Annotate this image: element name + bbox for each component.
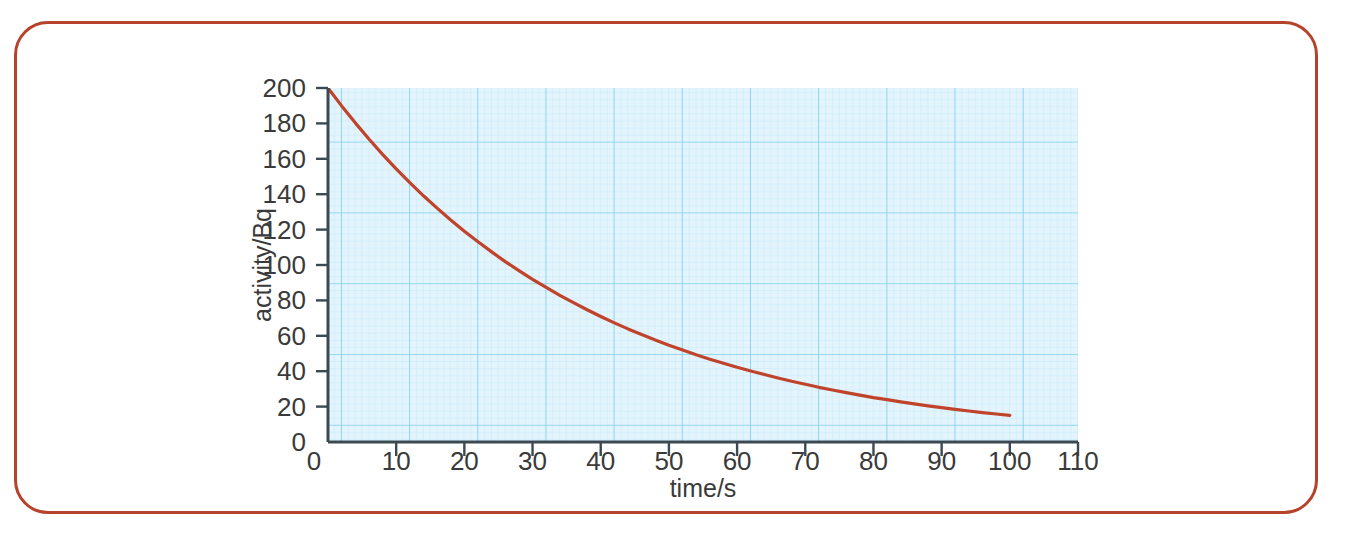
x-tick-label: 50: [654, 446, 683, 476]
x-axis-title: time/s: [670, 474, 737, 502]
x-tick-label: 110: [1057, 446, 1098, 476]
x-tick-label: 0: [307, 446, 321, 476]
x-tick-label: 30: [518, 446, 547, 476]
x-tick-label: 70: [791, 446, 820, 476]
y-tick-label: 80: [277, 285, 306, 315]
x-tick-label: 90: [927, 446, 956, 476]
chart-svg: 020406080100120140160180200 010203040506…: [0, 0, 1346, 537]
x-tick-label: 80: [859, 446, 888, 476]
y-tick-label: 20: [277, 392, 306, 422]
x-tick-label: 100: [988, 446, 1031, 476]
x-tick-label: 10: [382, 446, 411, 476]
x-axis-tick-labels: 0102030405060708090100110: [307, 446, 1099, 476]
plot-grid: [328, 88, 1078, 442]
y-tick-label: 60: [277, 321, 306, 351]
y-tick-label: 40: [277, 356, 306, 386]
y-tick-label: 180: [263, 108, 306, 138]
y-axis-ticks: [316, 88, 328, 407]
page-root: 020406080100120140160180200 010203040506…: [0, 0, 1346, 537]
x-tick-label: 20: [450, 446, 479, 476]
y-tick-label: 0: [292, 427, 306, 457]
y-axis-title: activity/Bq: [248, 208, 276, 322]
x-tick-label: 60: [723, 446, 752, 476]
y-tick-label: 140: [263, 179, 306, 209]
y-tick-label: 160: [263, 144, 306, 174]
activity-decay-chart: 020406080100120140160180200 010203040506…: [0, 0, 1346, 537]
x-tick-label: 40: [586, 446, 615, 476]
y-tick-label: 200: [263, 73, 306, 103]
